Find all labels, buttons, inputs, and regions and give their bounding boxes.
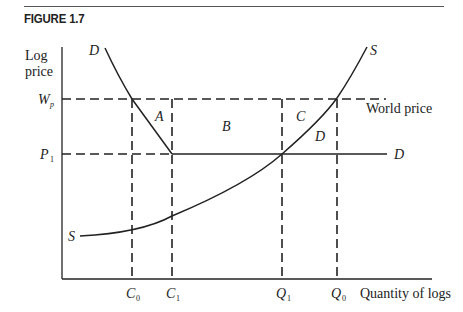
svg-text:P: P [39,147,49,162]
svg-text:0: 0 [342,294,346,303]
area-c-label: C [296,109,306,124]
svg-text:1: 1 [176,294,180,303]
svg-text:0: 0 [136,294,140,303]
supply-label-left: S [68,229,75,244]
svg-text:C: C [126,286,136,301]
chart: Log price W p P 1 C 0 C 1 Q 1 Q 0 Quanti… [0,0,463,312]
x-tick-q0: Q 0 [331,286,346,303]
svg-text:Q: Q [331,286,341,301]
x-tick-q1: Q 1 [276,286,291,303]
svg-text:Q: Q [276,286,286,301]
x-tick-c1: C 1 [166,286,180,303]
area-b-label: B [222,119,231,134]
svg-text:C: C [166,286,176,301]
svg-text:1: 1 [50,155,54,164]
svg-text:1: 1 [287,294,291,303]
supply-label-top: S [370,43,377,58]
x-tick-c0: C 0 [126,286,140,303]
y-tick-wp: W p [38,92,54,109]
demand-curve [105,48,172,154]
demand-label-right: D [393,147,404,162]
area-d-label: D [314,129,325,144]
y-axis-label-line2: price [25,64,53,79]
area-a-label: A [154,109,164,124]
svg-text:p: p [49,100,54,109]
y-axis-label-line1: Log [25,48,48,63]
demand-label-top: D [88,43,99,58]
world-price-label: World price [366,101,432,116]
x-axis-label: Quantity of logs [360,286,451,301]
y-tick-p1: P 1 [39,147,54,164]
